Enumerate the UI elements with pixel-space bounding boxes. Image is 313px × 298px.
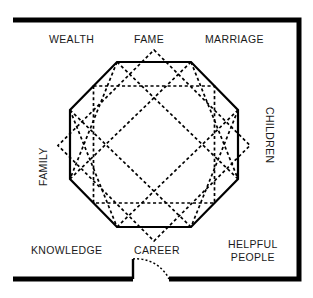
label-helpful-people: HELPFUL PEOPLE [228, 238, 278, 263]
label-career: CAREER [134, 244, 180, 257]
label-helpful-people-line2: PEOPLE [231, 251, 275, 263]
label-children: CHILDREN [264, 107, 277, 163]
label-marriage: MARRIAGE [205, 33, 264, 46]
label-fame: FAME [134, 33, 164, 46]
label-family: FAMILY [37, 147, 50, 186]
bagua-map-diagram: WEALTH FAME MARRIAGE CHILDREN FAMILY KNO… [0, 0, 313, 298]
door-swing-arc [133, 259, 169, 279]
label-knowledge: KNOWLEDGE [31, 244, 102, 257]
label-helpful-people-line1: HELPFUL [228, 238, 278, 250]
label-wealth: WEALTH [49, 33, 94, 46]
